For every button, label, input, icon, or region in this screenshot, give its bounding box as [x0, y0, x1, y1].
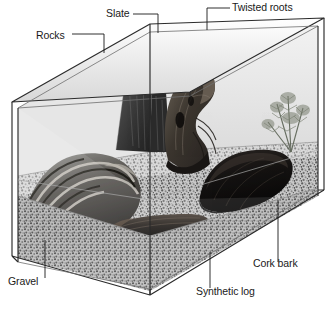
figure-canvas: Rocks Slate Twisted roots Gravel Synthet… — [0, 0, 336, 315]
label-gravel: Gravel — [8, 276, 38, 287]
label-twisted-roots: Twisted roots — [232, 2, 293, 13]
label-cork-bark: Cork bark — [253, 258, 298, 269]
label-synthetic-log: Synthetic log — [196, 286, 255, 297]
leader-rocks — [72, 34, 104, 53]
label-slate: Slate — [106, 8, 129, 19]
label-rocks: Rocks — [36, 30, 65, 41]
